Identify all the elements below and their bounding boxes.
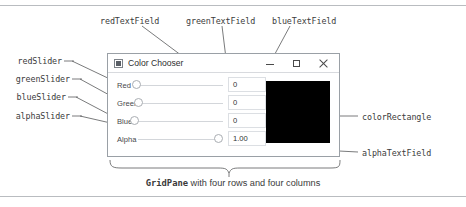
slider-track (137, 85, 223, 86)
slider-thumb[interactable] (130, 116, 139, 125)
gridpane-brace (110, 160, 340, 173)
annotation-greenslider: greenSlider (0, 74, 70, 84)
alpha-text-field[interactable]: 1.00 (228, 131, 266, 146)
annotation-redtextfield: redTextField (100, 16, 159, 26)
annotation-alphatextfield: alphaTextField (362, 148, 431, 158)
window-titlebar: Color Chooser (108, 54, 339, 73)
annotation-blueslider: blueSlider (0, 92, 66, 102)
page-rule-bottom (0, 196, 466, 197)
app-window-icon (114, 59, 123, 68)
minimize-button[interactable] (257, 54, 283, 72)
slider-track (138, 139, 218, 140)
maximize-button[interactable] (283, 54, 309, 72)
close-button[interactable] (310, 54, 336, 72)
slider-thumb[interactable] (214, 134, 223, 143)
annotation-alphaslider: alphaSlider (0, 111, 70, 121)
blue-text-field[interactable]: 0 (228, 113, 266, 128)
close-icon (319, 59, 328, 68)
maximize-icon (293, 60, 300, 67)
alpha-slider[interactable] (138, 131, 223, 148)
red-slider[interactable] (132, 77, 223, 94)
page-rule-top (0, 5, 466, 6)
annotation-redslider: redSlider (0, 56, 62, 66)
red-text-field[interactable]: 0 (228, 77, 266, 92)
slider-track (139, 103, 223, 104)
caption-code: GridPane (146, 178, 188, 188)
slider-track (135, 121, 223, 122)
label-alpha: Alpha (117, 135, 136, 144)
slider-thumb[interactable] (132, 80, 141, 89)
annotation-greentextfield: greenTextField (186, 16, 255, 26)
gridpane: Red 0 Green 0 Blue (108, 73, 339, 156)
minimize-icon (266, 64, 274, 65)
green-text-field[interactable]: 0 (228, 95, 266, 110)
window-title: Color Chooser (128, 58, 183, 68)
figure-caption: GridPane with four rows and four columns (0, 178, 466, 188)
slider-thumb[interactable] (134, 98, 143, 107)
label-red: Red (117, 81, 131, 90)
color-rectangle (266, 81, 330, 143)
annotation-colorrectangle: colorRectangle (362, 112, 431, 122)
blue-slider[interactable] (130, 113, 223, 130)
color-chooser-window: Color Chooser Red 0 (107, 53, 340, 157)
annotation-bluetextfield: blueTextField (272, 16, 336, 26)
figure-root: redSlider greenSlider blueSlider alphaSl… (0, 0, 466, 207)
caption-rest: with four rows and four columns (188, 178, 320, 188)
green-slider[interactable] (134, 95, 223, 112)
